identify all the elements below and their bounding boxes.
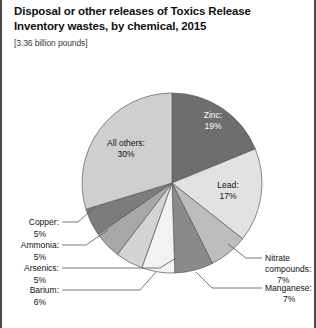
outside-labels-left: Copper: 5% Ammonia: 5% Arsenics: 5% Bari… (21, 217, 59, 307)
slice-label-zinc-name: Zinc: (204, 110, 222, 120)
slice-label-copper-name: Copper: (29, 217, 59, 227)
slice-label-copper-pct: 5% (34, 229, 47, 239)
slice-label-ammonia-pct: 5% (34, 252, 47, 262)
slice-label-barium-name: Barium: (30, 285, 59, 295)
pie-chart: Zinc: 19% Lead: 17% All others: 30% Nitr… (0, 0, 316, 328)
slice-label-nitrate-line1: Nitrate (265, 253, 290, 263)
slice-label-nitrate-line2: compounds: (265, 264, 311, 274)
slice-label-manganese-pct: 7% (283, 294, 296, 304)
leader-line-manganese (196, 272, 262, 288)
slice-label-arsenics-pct: 5% (34, 275, 47, 285)
slice-label-ammonia-name: Ammonia: (21, 240, 59, 250)
slice-label-lead-name: Lead: (217, 180, 238, 190)
slice-label-manganese-name: Manganese: (265, 283, 312, 293)
slice-label-zinc-pct: 19% (204, 121, 221, 131)
slice-label-allothers-pct: 30% (117, 149, 134, 159)
slice-label-barium-pct: 6% (34, 297, 47, 307)
slice-label-arsenics-name: Arsenics: (24, 263, 59, 273)
leader-line-barium (62, 272, 156, 290)
slice-label-lead-pct: 17% (219, 191, 236, 201)
slice-label-allothers-name: All others: (107, 138, 145, 148)
outside-labels-right: Nitrate compounds: 7% Manganese: 7% (265, 253, 312, 304)
